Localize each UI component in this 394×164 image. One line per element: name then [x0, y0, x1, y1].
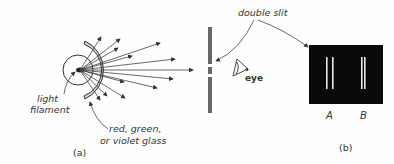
label-light: light — [37, 93, 58, 104]
fringe-a1 — [326, 57, 328, 89]
double-slit-figure: light filament red, green, or violet gla… — [0, 0, 394, 164]
label-filament: filament — [30, 104, 69, 115]
double-slit-barrier — [208, 27, 212, 113]
label-fringe-b: B — [360, 110, 367, 121]
label-double-slit: double slit — [238, 7, 287, 18]
light-rays — [80, 37, 193, 100]
screen-leader — [258, 20, 308, 47]
observation-screen — [309, 45, 383, 104]
label-glass-1: red, green, — [109, 123, 162, 134]
diagram-drawing — [0, 0, 394, 164]
filament-leader — [64, 72, 75, 94]
label-glass-2: or violet glass — [100, 135, 166, 146]
label-eye: eye — [245, 73, 263, 84]
caption-a: (a) — [73, 147, 86, 158]
fringe-b1 — [361, 57, 363, 89]
fringe-b2 — [364, 57, 366, 89]
label-fringe-a: A — [326, 110, 333, 121]
slit-leader — [216, 20, 254, 61]
fringe-a2 — [332, 57, 334, 89]
glass-leader — [90, 102, 108, 129]
caption-b: (b) — [339, 142, 352, 153]
